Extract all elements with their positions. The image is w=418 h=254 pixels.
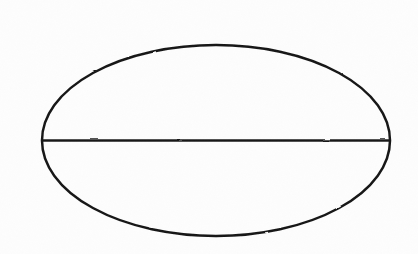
figure-canvas: Ellipse with major axis A single horizon… [0,0,418,254]
ellipse-diagram-svg [0,0,418,254]
diagram-background [0,0,418,254]
